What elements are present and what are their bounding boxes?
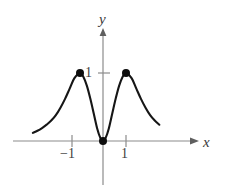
plot-canvas	[0, 0, 231, 191]
function-curve	[33, 73, 160, 141]
y-tick-label-1: 1	[85, 66, 92, 80]
marked-point-right-max	[122, 69, 130, 77]
x-tick-label-neg1: −1	[60, 147, 75, 161]
y-axis-label: y	[99, 12, 106, 27]
y-axis-arrowhead	[100, 28, 107, 36]
graph-figure: y x 1 −1 1	[0, 0, 231, 191]
marked-point-left-max	[76, 69, 84, 77]
x-tick-label-1: 1	[121, 147, 128, 161]
marked-point-origin-min	[99, 137, 107, 145]
x-axis-arrowhead	[190, 137, 199, 144]
x-axis-label: x	[203, 135, 210, 150]
